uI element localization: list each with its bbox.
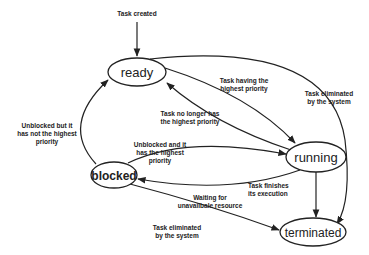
edge-blocked-to-ready bbox=[81, 80, 108, 164]
label-ready-to-running-1: Task having the bbox=[220, 77, 269, 85]
label-blocked-to-ready-3: priority bbox=[36, 138, 59, 146]
label-ready-to-terminated-2: by the system bbox=[307, 98, 351, 106]
label-task-created: Task created bbox=[117, 10, 156, 17]
label-blocked-to-ready-2: has not the highest bbox=[17, 130, 77, 138]
state-diagram: ready running blocked terminated Task cr… bbox=[0, 0, 369, 255]
label-ready-to-terminated-1: Task eliminated bbox=[305, 90, 353, 97]
label-blocked-to-terminated-1: Task eliminated bbox=[153, 224, 201, 231]
label-blocked-to-terminated-2: by the system bbox=[155, 232, 199, 240]
label-running-to-terminated-1: Task finishes bbox=[248, 182, 289, 189]
state-terminated: terminated bbox=[280, 218, 346, 246]
state-blocked: blocked bbox=[91, 162, 137, 188]
label-running-to-ready-2: the highest priority bbox=[161, 118, 220, 126]
label-blocked-to-ready-1: Unblocked but it bbox=[22, 122, 74, 129]
label-blocked-to-running-1: Unblocked and it bbox=[134, 141, 187, 148]
state-running: running bbox=[286, 142, 346, 172]
state-ready: ready bbox=[108, 58, 166, 86]
state-terminated-label: terminated bbox=[285, 226, 342, 240]
label-running-to-blocked-1: Waiting for bbox=[193, 194, 227, 202]
label-running-to-blocked-2: unavailbale resource bbox=[178, 202, 243, 209]
label-running-to-terminated-2: its execution bbox=[248, 190, 288, 197]
state-ready-label: ready bbox=[121, 65, 154, 80]
state-running-label: running bbox=[294, 150, 337, 165]
label-ready-to-running-2: highest priority bbox=[220, 85, 268, 93]
label-running-to-ready-1: Task no longer has bbox=[161, 110, 220, 118]
label-blocked-to-running-3: priority bbox=[149, 157, 172, 165]
label-blocked-to-running-2: has the highest bbox=[136, 149, 185, 157]
state-blocked-label: blocked bbox=[91, 169, 136, 183]
